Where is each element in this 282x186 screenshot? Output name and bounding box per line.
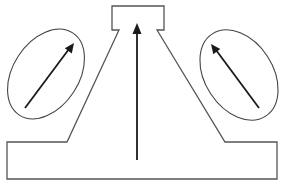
diagram-canvas (0, 0, 282, 186)
right-arrow (211, 44, 259, 108)
right-ellipse (184, 15, 282, 134)
left-arrow-shaft (25, 49, 69, 108)
central-arrow (133, 23, 142, 160)
central-arrow-head-icon (133, 23, 142, 34)
right-arrow-shaft (216, 50, 259, 108)
left-arrow (25, 43, 74, 108)
